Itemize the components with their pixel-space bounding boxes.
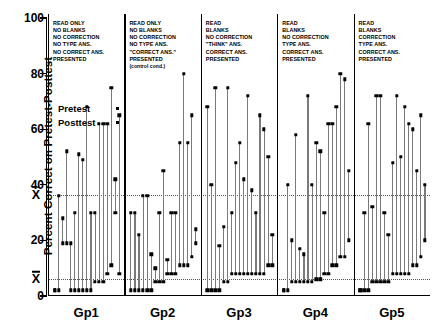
data-point-posttest [403,105,406,108]
stem-line [287,185,288,291]
data-point-posttest [395,94,398,97]
y-axis-tick [40,17,47,18]
data-point-pretest [423,239,426,242]
data-point-pretest [246,272,249,275]
data-point-posttest [158,211,161,214]
data-point-pretest [149,289,152,292]
data-point-pretest [310,280,313,283]
data-point-pretest [387,280,390,283]
data-point-pretest [298,280,301,283]
data-point-posttest [65,150,68,153]
x-axis-group-label: Gp5 [379,305,404,320]
group-panel: READBLANKSCORRECTIONTYPE ANS.CORRECT ANS… [354,18,430,296]
data-point-posttest [114,178,117,181]
stem-line [312,185,313,282]
stem-line [420,115,421,257]
data-point-pretest [323,272,326,275]
group-caption-line: READ [206,20,252,27]
data-point-posttest [423,183,426,186]
stem-line [340,74,341,257]
data-point-posttest [222,225,225,228]
stem-line [259,115,260,273]
stem-line [384,213,385,283]
stem-line [143,196,144,291]
data-point-pretest [347,239,350,242]
data-point-posttest [214,86,217,89]
group-caption-line: "CORRECT ANS." [129,49,176,56]
stem-line [235,163,236,274]
group-caption: READ ONLYNO BLANKSNO CORRECTIONNO TYPE A… [129,20,176,69]
data-point-posttest [61,216,64,219]
data-point-posttest [258,114,261,117]
panel-separator [354,14,355,296]
data-point-pretest [158,280,161,283]
stem-line [328,124,329,274]
data-point-pretest [170,272,173,275]
data-point-pretest [97,280,100,283]
stem-line [138,235,139,291]
data-point-posttest [323,211,326,214]
data-point-posttest [335,105,338,108]
data-point-posttest [145,194,148,197]
stem-line [115,179,116,212]
data-point-pretest [302,280,305,283]
data-point-posttest [133,211,136,214]
group-caption-line: NO BLANKS [129,27,176,34]
data-point-pretest [186,264,189,267]
data-point-pretest [210,289,213,292]
group-caption-line: READ ONLY [129,20,176,27]
mean-label: X [32,188,40,201]
data-point-pretest [399,272,402,275]
chart-legend: Pretest Posttest [58,102,119,130]
stem-line [408,124,409,274]
group-caption-line: BLANKS [359,27,400,34]
data-point-pretest [335,264,338,267]
group-caption-line: NO TYPE ANS. [129,41,176,48]
data-point-pretest [218,289,221,292]
data-point-posttest [129,211,132,214]
stem-line [99,124,100,282]
data-point-posttest [407,122,410,125]
stem-line [239,143,240,274]
data-point-posttest [302,253,305,256]
stem-line [82,160,83,291]
stem-line [295,135,296,282]
group-caption: READBLANKSNO CORRECTION"THINK" ANS.CORRE… [206,20,252,63]
stem-line [74,213,75,291]
stem-line [344,79,345,257]
data-point-pretest [314,278,317,281]
stem-line [58,196,59,291]
x-axis-group-label: Gp2 [150,305,175,320]
legend-marker-pretest [116,107,119,110]
stem-line [272,235,273,266]
data-point-posttest [162,169,165,172]
data-point-pretest [266,264,269,267]
y-axis-tick-labels: 020406080100XX [0,0,44,328]
stem-line [66,151,67,243]
group-caption-line: NO CORRECTION [206,34,252,41]
plot-area: READ ONLYNO BLANKSNO CORRECTIONNO TYPE A… [48,18,430,296]
data-point-pretest [367,289,370,292]
group-caption-line: READ [282,20,328,27]
y-axis-tick [40,295,47,296]
stem-line [70,243,71,290]
data-point-posttest [81,158,84,161]
legend-item-posttest: Posttest [58,116,119,130]
data-point-pretest [242,272,245,275]
data-point-pretest [371,280,374,283]
data-point-pretest [190,255,193,258]
data-point-pretest [238,272,241,275]
stem-line [307,96,308,282]
data-point-pretest [214,289,217,292]
stem-line [62,218,63,243]
stem-line [171,213,172,274]
stem-line [255,213,256,274]
data-point-posttest [53,289,56,292]
data-point-posttest [339,72,342,75]
data-point-pretest [106,272,109,275]
data-point-pretest [318,278,321,281]
stem-line [404,107,405,274]
data-point-posttest [190,114,193,117]
group-caption: READBLANKSNO CORRECTIONTYPE ANS.CORRECT … [282,20,328,63]
panel-separator [48,14,49,296]
